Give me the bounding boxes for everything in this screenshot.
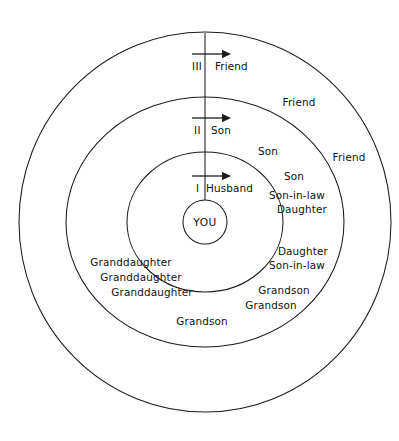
member-label-son: Son — [258, 145, 278, 157]
ring-title-ii: Son — [211, 124, 231, 136]
ring-title-i: Husband — [206, 182, 253, 194]
ring-numeral-i: I — [196, 183, 199, 194]
member-label-granddaughter: Granddaughter — [111, 286, 193, 298]
diagram-canvas: YOU IHusbandIISonIIIFriend FriendFriendS… — [0, 0, 399, 441]
center-label-you: YOU — [192, 216, 216, 228]
member-label-grandson: Grandson — [176, 315, 227, 327]
member-label-friend: Friend — [283, 96, 316, 108]
ring-numeral-iii: III — [192, 61, 202, 72]
member-label-grandson: Grandson — [245, 299, 296, 311]
member-label-son: Son — [284, 170, 304, 182]
member-label-daughter: Daughter — [277, 203, 328, 215]
member-label-granddaughter: Granddaughter — [90, 256, 172, 268]
ring-arrow-head-i — [222, 172, 231, 180]
member-label-son-in-law: Son-in-law — [269, 259, 325, 271]
member-label-granddaughter: Granddaughter — [100, 271, 182, 283]
member-label-daughter: Daughter — [278, 245, 329, 257]
ring-arrow-head-iii — [222, 50, 231, 58]
member-label-friend: Friend — [333, 151, 366, 163]
convoy-diagram: YOU IHusbandIISonIIIFriend FriendFriendS… — [0, 0, 399, 441]
member-label-son-in-law: Son-in-law — [269, 189, 325, 201]
ring-arrow-head-ii — [222, 114, 231, 122]
member-label-grandson: Grandson — [258, 284, 309, 296]
ring-title-iii: Friend — [215, 60, 248, 72]
ring-numeral-ii: II — [194, 125, 201, 136]
